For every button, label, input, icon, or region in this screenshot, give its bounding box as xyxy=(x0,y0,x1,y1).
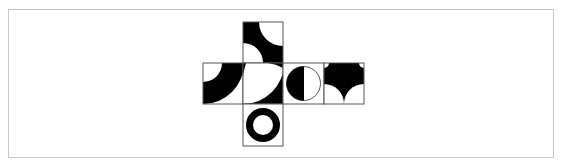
cube-net xyxy=(0,0,562,168)
face-bottom xyxy=(243,104,283,146)
face-right xyxy=(283,63,324,104)
